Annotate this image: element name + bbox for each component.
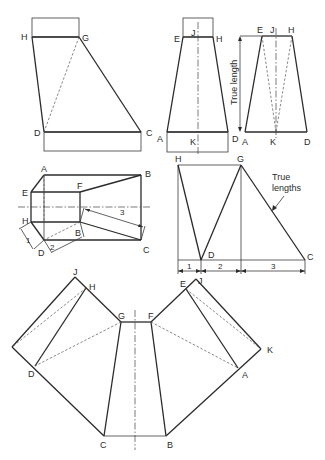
label-J-right: J bbox=[198, 276, 203, 286]
dim-3: 3 bbox=[271, 262, 276, 271]
true-length-annotation: True length bbox=[229, 60, 239, 105]
arrow-up-icon bbox=[238, 36, 242, 41]
label-K: K bbox=[267, 345, 273, 355]
label-D: D bbox=[208, 250, 215, 260]
elevation-view: H G D C bbox=[21, 18, 153, 151]
label-B-small: B bbox=[75, 228, 81, 238]
label-A: A bbox=[41, 164, 47, 174]
label-A: A bbox=[242, 370, 248, 380]
label-H: H bbox=[22, 216, 29, 226]
plan-view: 1 2 3 A B E F H D B C bbox=[18, 164, 152, 258]
arrow-down-icon bbox=[238, 127, 242, 132]
label-C: C bbox=[143, 245, 150, 255]
dim-2: 2 bbox=[218, 262, 223, 271]
label-H: H bbox=[21, 32, 28, 42]
label-D: D bbox=[232, 134, 239, 144]
label-J: J bbox=[191, 28, 196, 38]
top-square-flange bbox=[32, 18, 79, 37]
label-D: D bbox=[38, 248, 45, 258]
dim-3: 3 bbox=[120, 208, 125, 217]
label-D: D bbox=[304, 137, 311, 147]
development-pattern: J H G F E J K D A C B bbox=[12, 267, 273, 450]
true-lengths-line2: lengths bbox=[272, 183, 302, 193]
label-C: C bbox=[100, 440, 107, 450]
technical-drawing: H G D C E J H A K D True length E J H bbox=[0, 0, 325, 460]
label-K: K bbox=[270, 137, 276, 147]
label-H: H bbox=[89, 282, 96, 292]
side-view: True length E J H A K D bbox=[229, 25, 311, 147]
label-G: G bbox=[237, 154, 244, 164]
label-G: G bbox=[82, 33, 89, 43]
label-J: J bbox=[270, 25, 275, 35]
label-E: E bbox=[174, 34, 180, 44]
label-C: C bbox=[307, 252, 314, 262]
label-D: D bbox=[28, 369, 35, 379]
label-C: C bbox=[146, 128, 153, 138]
label-B: B bbox=[167, 440, 173, 450]
label-H: H bbox=[216, 34, 223, 44]
front-view: E J H A K D bbox=[157, 18, 239, 155]
label-K: K bbox=[190, 137, 196, 147]
label-A: A bbox=[242, 137, 248, 147]
dim-1: 1 bbox=[26, 236, 31, 245]
label-E: E bbox=[180, 279, 186, 289]
label-F: F bbox=[77, 181, 83, 191]
label-B: B bbox=[145, 169, 151, 179]
dim-2: 2 bbox=[50, 243, 55, 252]
label-G: G bbox=[118, 311, 125, 321]
true-length-diagram: 1 2 3 True lengths H G D C bbox=[175, 154, 314, 274]
dim-1: 1 bbox=[187, 262, 192, 271]
label-H: H bbox=[175, 154, 182, 164]
label-J-left: J bbox=[73, 267, 78, 277]
true-lengths-line1: True bbox=[272, 172, 290, 182]
label-A: A bbox=[157, 134, 163, 144]
label-D: D bbox=[34, 128, 41, 138]
bottom-rect-flange bbox=[44, 132, 141, 151]
label-E: E bbox=[257, 25, 263, 35]
label-H: H bbox=[288, 25, 295, 35]
label-F: F bbox=[148, 311, 154, 321]
label-E: E bbox=[22, 188, 28, 198]
